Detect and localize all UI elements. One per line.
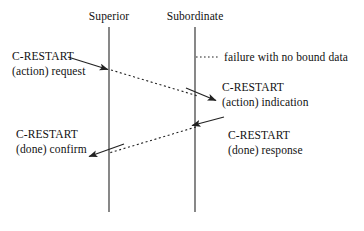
message-done-response: C-RESTART (done) response — [228, 128, 303, 157]
message-done-confirm-line2: (done) confirm — [16, 142, 87, 157]
header-subordinate: Subordinate — [167, 9, 224, 24]
message-done-response-line2: (done) response — [228, 143, 303, 158]
failure-legend-label: failure with no bound data — [224, 50, 348, 65]
header-superior: Superior — [89, 9, 129, 24]
message-done-response-line1: C-RESTART — [228, 128, 303, 143]
propagation-request — [111, 70, 198, 96]
message-done-confirm-line1: C-RESTART — [16, 127, 87, 142]
arrow-done-confirm — [89, 144, 124, 157]
arrow-done-response — [192, 117, 224, 126]
message-action-indication-line2: (action) indication — [222, 95, 309, 110]
sequence-diagram: Superior Subordinate C-RESTART (action) … — [0, 0, 364, 231]
propagation-response — [109, 127, 196, 153]
message-action-indication-line1: C-RESTART — [222, 80, 309, 95]
message-action-request: C-RESTART (action) request — [12, 49, 85, 78]
message-action-request-line2: (action) request — [12, 64, 85, 79]
diagram-canvas — [0, 0, 364, 231]
message-action-request-line1: C-RESTART — [12, 49, 85, 64]
message-done-confirm: C-RESTART (done) confirm — [16, 127, 87, 156]
message-action-indication: C-RESTART (action) indication — [222, 80, 309, 109]
